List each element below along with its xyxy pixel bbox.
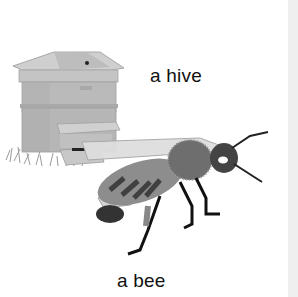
page-edge-strip [288, 0, 298, 297]
illustration-canvas [0, 0, 288, 297]
bee-illustration [82, 132, 268, 254]
hive-caption: a hive [150, 65, 202, 87]
picture-card: a hive a bee [0, 0, 288, 297]
bee-caption: a bee [117, 270, 166, 292]
